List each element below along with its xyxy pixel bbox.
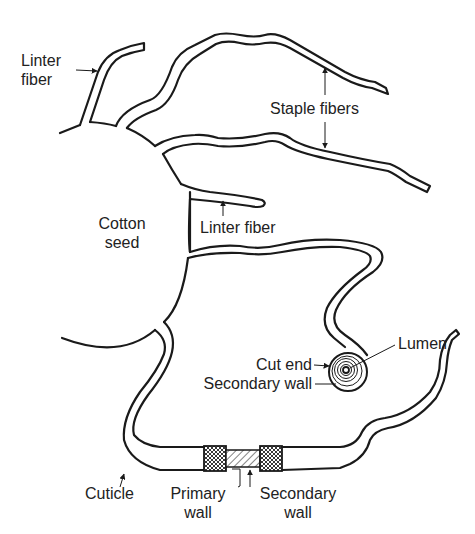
label-cotton-seed: Cotton seed bbox=[85, 214, 159, 252]
secondary-wall-section bbox=[226, 450, 260, 467]
cotton-fiber-diagram bbox=[0, 0, 475, 534]
label-staple-fibers: Staple fibers bbox=[270, 99, 359, 118]
label-lumen: Lumen bbox=[398, 334, 447, 353]
label-secondary-wall-end: Secondary wall bbox=[170, 374, 312, 393]
label-secondary-wall-section: Secondary wall bbox=[250, 484, 346, 522]
primary-wall-section-left bbox=[204, 446, 226, 471]
label-cut-end: Cut end bbox=[200, 355, 312, 374]
label-linter-fiber-mid: Linter fiber bbox=[200, 218, 276, 237]
label-linter-fiber-top: Linter fiber bbox=[21, 51, 61, 89]
label-wall-line2: wall bbox=[158, 503, 238, 522]
label-wall-line2: wall bbox=[250, 503, 346, 522]
staple-fiber-lower bbox=[155, 68, 430, 192]
label-secondary-line1: Secondary bbox=[250, 484, 346, 503]
cut-end-rings bbox=[329, 353, 367, 391]
label-cuticle: Cuticle bbox=[85, 484, 134, 503]
label-seed-line2: seed bbox=[85, 233, 159, 252]
label-fiber-line2: fiber bbox=[21, 70, 61, 89]
primary-wall-section-right bbox=[260, 446, 282, 471]
label-primary-line1: Primary bbox=[158, 484, 238, 503]
label-linter-line1: Linter bbox=[21, 51, 61, 70]
label-primary-wall: Primary wall bbox=[158, 484, 238, 522]
linter-fiber-top bbox=[76, 43, 144, 125]
label-cotton-line1: Cotton bbox=[85, 214, 159, 233]
